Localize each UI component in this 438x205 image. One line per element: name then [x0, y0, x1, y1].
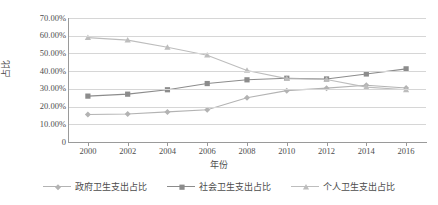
data-point-marker — [364, 71, 369, 76]
y-axis-tick-label: 40.00% — [6, 67, 66, 76]
legend-label: 社会卫生支出占比 — [199, 180, 271, 193]
y-axis-tick-label: 60.00% — [6, 31, 66, 40]
gridline — [68, 124, 426, 125]
y-axis-tick-label: 70.00% — [6, 14, 66, 23]
gridline — [68, 71, 426, 72]
legend-marker-square-icon — [167, 182, 195, 192]
series-line — [88, 69, 406, 96]
legend-label: 个人卫生支出占比 — [323, 180, 395, 193]
legend-item-3[interactable]: 个人卫生支出占比 — [291, 180, 395, 193]
data-point-marker — [179, 184, 184, 189]
y-axis-tick-label: 0 — [6, 138, 66, 147]
x-axis-tick-label: 2002 — [108, 146, 148, 156]
data-point-marker — [85, 94, 90, 99]
x-axis-tick-label: 2016 — [386, 146, 426, 156]
series-1 — [85, 82, 409, 117]
x-axis-tick-label: 2012 — [307, 146, 347, 156]
x-axis-tick-label: 2014 — [346, 146, 386, 156]
chart-legend: 政府卫生支出占比社会卫生支出占比个人卫生支出占比 — [0, 180, 438, 193]
data-point-marker — [244, 77, 249, 82]
data-point-marker — [303, 184, 309, 190]
data-point-marker — [164, 109, 170, 115]
x-axis-title: 年份 — [0, 158, 438, 171]
y-axis-tick-label: 20.00% — [6, 102, 66, 111]
legend-item-2[interactable]: 社会卫生支出占比 — [167, 180, 271, 193]
series-3 — [85, 35, 409, 93]
gridline — [68, 36, 426, 37]
chart-container: 占比 010.00%20.00%30.00%40.00%50.00%60.00%… — [0, 0, 438, 205]
legend-marker-triangle-icon — [291, 182, 319, 192]
gridline — [68, 89, 426, 90]
y-axis-labels: 010.00%20.00%30.00%40.00%50.00%60.00%70.… — [2, 18, 66, 143]
legend-item-1[interactable]: 政府卫生支出占比 — [43, 180, 147, 193]
x-axis-tick-label: 2000 — [68, 146, 108, 156]
x-axis-tick-label: 2010 — [267, 146, 307, 156]
data-point-marker — [205, 81, 210, 86]
gridline — [68, 18, 426, 19]
y-axis-tick-label: 10.00% — [6, 120, 66, 129]
x-axis-tick-label: 2006 — [187, 146, 227, 156]
legend-marker-diamond-icon — [43, 182, 71, 192]
legend-label: 政府卫生支出占比 — [75, 180, 147, 193]
data-point-marker — [125, 111, 131, 117]
gridline — [68, 53, 426, 54]
y-axis-line — [68, 18, 69, 143]
plot-area — [68, 18, 426, 142]
x-axis-tick-label: 2004 — [147, 146, 187, 156]
y-axis-tick-label: 30.00% — [6, 84, 66, 93]
gridline — [68, 107, 426, 108]
data-point-marker — [125, 92, 130, 97]
y-axis-tick-label: 50.00% — [6, 49, 66, 58]
data-point-marker — [55, 184, 61, 190]
data-point-marker — [204, 107, 210, 113]
data-point-marker — [85, 112, 91, 118]
data-point-marker — [244, 95, 250, 101]
x-axis-tick-label: 2008 — [227, 146, 267, 156]
